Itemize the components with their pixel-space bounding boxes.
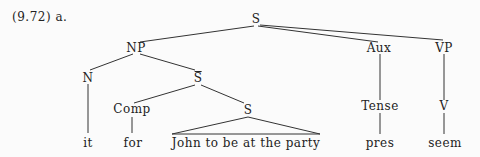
node-s-bar: S (194, 72, 203, 85)
node-comp: Comp (113, 103, 150, 116)
leaf-pres: pres (366, 137, 395, 150)
node-s-inner: S (244, 104, 253, 117)
leaf-it: it (83, 137, 93, 150)
s-bar-symbol: S (194, 72, 203, 85)
leaf-seem: seem (428, 137, 462, 150)
leaf-clause: John to be at the party (172, 137, 321, 150)
node-n: N (83, 72, 94, 85)
node-aux: Aux (367, 42, 392, 55)
node-s-root: S (252, 13, 261, 26)
node-np: NP (126, 42, 146, 55)
node-vp: VP (435, 42, 453, 55)
node-tense: Tense (361, 100, 399, 113)
example-number: (9.72) a. (12, 10, 67, 24)
tree-edges (0, 0, 480, 157)
node-v: V (439, 100, 448, 113)
leaf-for: for (124, 137, 143, 150)
